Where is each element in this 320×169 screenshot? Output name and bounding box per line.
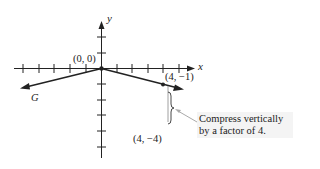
y-axis <box>97 21 106 158</box>
point-4-neg1 <box>161 83 165 87</box>
origin-point <box>99 66 103 70</box>
annotation-line-2: by a factor of 4. <box>199 125 291 137</box>
annotation-pointer <box>178 111 197 122</box>
point-label-4-neg1: (4, −1) <box>165 72 194 83</box>
annotation-line-1: Compress vertically <box>199 113 291 125</box>
x-axis-label: x <box>198 61 203 72</box>
arrowhead-right <box>173 85 184 92</box>
brace <box>168 92 174 124</box>
y-axis-label: y <box>107 13 112 24</box>
point-label-4-neg4: (4, −4) <box>133 134 162 145</box>
annotation-note: Compress vertically by a factor of 4. <box>197 112 293 138</box>
arrowhead-left <box>20 83 30 90</box>
origin-label: (0, 0) <box>73 54 96 65</box>
graph-label-g: G <box>31 93 39 104</box>
